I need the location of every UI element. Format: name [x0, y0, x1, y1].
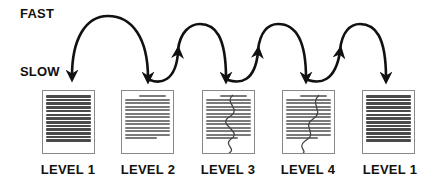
page-level-3: [202, 90, 255, 154]
level-label-1-repeat: LEVEL 1: [350, 162, 430, 177]
level-label-3: LEVEL 3: [188, 162, 268, 177]
page-level-1-repeat: [362, 90, 415, 154]
level-label-1: LEVEL 1: [28, 162, 108, 177]
page-level-1: [42, 90, 95, 154]
level-label-4: LEVEL 4: [268, 162, 348, 177]
page-level-4: [282, 90, 335, 154]
page-level-2: [121, 90, 174, 154]
tracing-path-icon: [203, 91, 255, 154]
tracing-path-icon: [283, 91, 335, 154]
level-label-2: LEVEL 2: [108, 162, 188, 177]
